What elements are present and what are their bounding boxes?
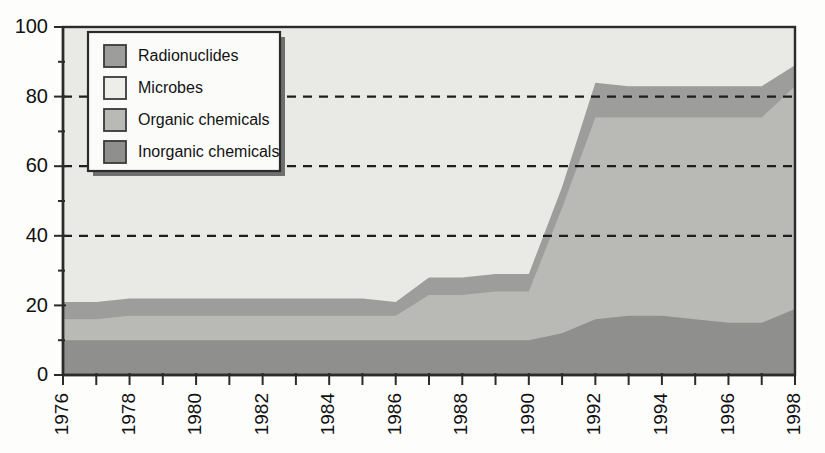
x-axis: 1976197819801982198419861988199019921994… — [51, 373, 804, 435]
y-tick-label-80: 80 — [26, 85, 48, 107]
legend-label-organic-chemicals: Organic chemicals — [138, 111, 270, 128]
legend-swatch-radionuclides — [104, 45, 126, 67]
x-tick-label-1992: 1992 — [583, 393, 604, 435]
x-tick-label-1984: 1984 — [317, 393, 338, 436]
y-tick-label-0: 0 — [37, 363, 48, 385]
y-axis: 020406080100 — [15, 15, 66, 385]
stacked-area-chart: 020406080100 197619781980198219841986198… — [0, 0, 825, 453]
x-tick-label-1994: 1994 — [650, 393, 671, 436]
x-tick-label-1998: 1998 — [783, 393, 804, 435]
x-tick-label-1976: 1976 — [51, 393, 72, 435]
chart-canvas: 020406080100 197619781980198219841986198… — [0, 0, 825, 453]
y-tick-label-40: 40 — [26, 224, 48, 246]
x-tick-label-1988: 1988 — [450, 393, 471, 435]
chart-legend: RadionuclidesMicrobesOrganic chemicalsIn… — [88, 32, 285, 176]
x-tick-label-1986: 1986 — [384, 393, 405, 435]
x-tick-label-1978: 1978 — [118, 393, 139, 435]
legend-swatch-microbes — [104, 77, 126, 99]
x-tick-label-1996: 1996 — [717, 393, 738, 435]
x-tick-label-1982: 1982 — [251, 393, 272, 435]
x-tick-label-1980: 1980 — [184, 393, 205, 435]
legend-swatch-organic-chemicals — [104, 109, 126, 131]
legend-label-inorganic-chemicals: Inorganic chemicals — [138, 143, 279, 160]
y-tick-label-60: 60 — [26, 154, 48, 176]
legend-label-radionuclides: Radionuclides — [138, 47, 239, 64]
y-tick-label-20: 20 — [26, 294, 48, 316]
legend-label-microbes: Microbes — [138, 79, 203, 96]
legend-swatch-inorganic-chemicals — [104, 141, 126, 163]
x-tick-label-1990: 1990 — [517, 393, 538, 435]
y-tick-label-100: 100 — [15, 15, 48, 37]
